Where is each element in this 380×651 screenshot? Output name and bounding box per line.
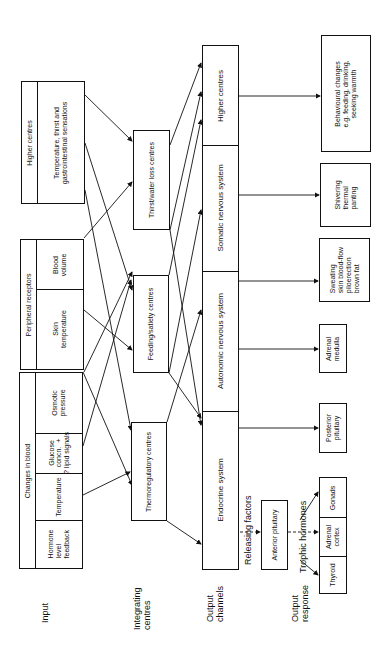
row-label-output-channels: Output channels <box>205 586 226 622</box>
channel-endocrine-label: Endocrine system <box>216 458 225 522</box>
response-adrenal-medulla-box: Adrenal medulla <box>319 324 347 373</box>
endocrine-targets-box: Gonads Adrenal cortex Thyroid <box>319 477 347 594</box>
input-changes-in-blood-header: Changes in blood <box>23 443 31 498</box>
thermoregulatory-centres: Thermoregulatory centres <box>131 422 167 521</box>
response-adrenal-medulla-label: Adrenal medulla <box>325 336 341 361</box>
channel-somatic-label: Somatic nervous system <box>216 164 225 251</box>
channel-higher-centres: Higher centres <box>203 46 238 146</box>
response-behavioural-box: Behavioural changes e.g. feeding, drinki… <box>321 35 371 152</box>
anterior-pituitary-label: Anterior pituitary <box>270 510 278 561</box>
input-sensations: Temperature, thirst and gastrointestinal… <box>52 101 68 184</box>
gonads-label: Gonads <box>329 485 337 510</box>
adrenal-cortex-label: Adrenal cortex <box>325 524 341 548</box>
anterior-pituitary-box: Anterior pituitary <box>261 500 288 570</box>
input-changes-in-blood-box: Changes in blood Osmotic pressure Glucos… <box>19 372 83 569</box>
target-adrenal-cortex: Adrenal cortex <box>320 517 346 557</box>
input-hormone-feedback: Hormone level feedback <box>46 530 70 559</box>
input-glucose-lipid: Glucose concn. + ? lipid signals <box>47 432 69 474</box>
input-skin-temperature: Skin temperature <box>51 310 67 348</box>
target-gonads: Gonads <box>320 478 346 518</box>
input-peripheral-receptors-box: Peripheral receptors Blood volume Skin t… <box>20 239 84 370</box>
thirst-centres-label: Thirst/water loss centres <box>147 142 155 218</box>
channel-higher-centres-label: Higher centres <box>216 69 225 121</box>
feeding-satiety-centres: Feeding/satiety centres <box>133 275 169 373</box>
releasing-factors-label: Releasing factors <box>243 495 253 565</box>
feeding-centres-label: Feeding/satiety centres <box>147 288 155 360</box>
response-posterior-pituitary-box: Posterior pituitary <box>319 403 347 453</box>
input-temperature: Temperature <box>54 477 62 516</box>
response-sweating-box: Sweating skin blood-flow piloerection br… <box>319 238 370 302</box>
input-osmotic-pressure: Osmotic pressure <box>50 389 66 416</box>
response-behavioural-label: Behavioural changes e.g. feeding, drinki… <box>334 60 358 127</box>
input-higher-centres-header: Higher centres <box>25 120 33 166</box>
channel-endocrine: Endocrine system <box>203 411 238 569</box>
row-label-integrating-centres: Integrating centres <box>132 587 153 630</box>
target-thyroid: Thyroid <box>320 556 346 593</box>
thirst-water-loss-centres: Thirst/water loss centres <box>133 130 170 230</box>
thermoregulatory-centres-label: Thermoregulatory centres <box>145 431 153 511</box>
channel-autonomic: Autonomic nervous system <box>203 271 238 412</box>
input-blood-volume: Blood volume <box>51 253 67 276</box>
row-label-output-response: Output response <box>290 585 311 622</box>
trophic-hormones-label: Trophic hormones <box>298 501 308 573</box>
channel-autonomic-label: Autonomic nervous system <box>216 293 225 389</box>
thyroid-label: Thyroid <box>329 563 337 586</box>
channel-somatic: Somatic nervous system <box>203 145 238 272</box>
response-shivering-label: Shivering thermal panting <box>333 180 357 209</box>
row-label-input: Input <box>40 603 50 623</box>
input-peripheral-receptors-header: Peripheral receptors <box>24 273 32 336</box>
output-channels-column: Higher centres Somatic nervous system Au… <box>202 45 239 570</box>
response-posterior-pituitary-label: Posterior pituitary <box>325 414 341 442</box>
response-shivering-box: Shivering thermal panting <box>320 163 371 227</box>
response-sweating-label: Sweating skin blood-flow piloerection br… <box>328 247 360 293</box>
input-higher-centres-box: Higher centres Temperature, thirst and g… <box>21 81 85 204</box>
